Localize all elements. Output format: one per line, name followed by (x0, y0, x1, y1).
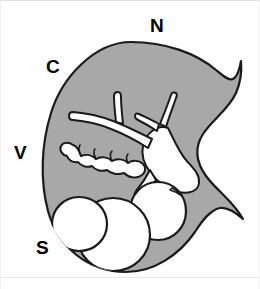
label-c: C (46, 57, 60, 76)
baseline-rule (2, 277, 258, 278)
label-s: S (36, 238, 49, 257)
acinus-left (52, 197, 107, 251)
figure-root: N C V S (0, 0, 260, 289)
duct-branch-upper-left (114, 92, 123, 124)
label-v: V (14, 143, 27, 162)
label-n: N (150, 16, 164, 35)
